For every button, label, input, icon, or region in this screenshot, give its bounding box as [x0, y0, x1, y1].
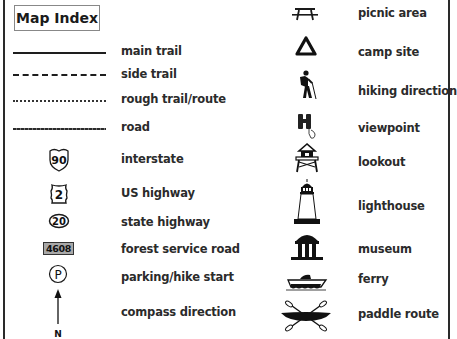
ferry-icon [284, 271, 328, 293]
legend-label-parking: parking/hike start [121, 270, 234, 284]
lookout-tower-icon [294, 143, 320, 173]
museum-icon [290, 232, 324, 262]
us-highway-shield-icon: 2 [49, 183, 69, 205]
legend-label-main-trail: main trail [121, 44, 182, 58]
side-trail-line-icon [13, 74, 106, 76]
left-border [3, 0, 5, 339]
legend-label-viewpoint: viewpoint [358, 121, 420, 135]
legend-label-hiking-direction: hiking direction [358, 84, 457, 98]
picnic-table-icon [291, 7, 319, 21]
legend-label-lookout: lookout [358, 155, 405, 169]
svg-text:N: N [54, 329, 62, 339]
state-highway-oval-icon: 20 [48, 213, 70, 229]
svg-text:20: 20 [52, 216, 66, 227]
interstate-shield-icon: 90 [48, 148, 70, 172]
legend-label-side-trail: side trail [121, 67, 177, 81]
legend-label-interstate: interstate [121, 152, 184, 166]
legend-label-forest-service-road: forest service road [121, 242, 240, 256]
right-border [448, 0, 450, 339]
legend-label-paddle-route: paddle route [358, 307, 439, 321]
rough-trail-line-icon [13, 100, 106, 102]
legend-label-lighthouse: lighthouse [358, 199, 425, 213]
road-line-icon [13, 128, 106, 130]
legend-label-museum: museum [358, 242, 412, 256]
svg-text:2: 2 [55, 188, 63, 202]
main-trail-line-icon [13, 52, 106, 54]
campsite-triangle-icon [295, 36, 317, 56]
legend-label-state-highway: state highway [121, 215, 210, 229]
map-index-title: Map Index [14, 5, 100, 31]
svg-text:90: 90 [51, 154, 67, 167]
legend-label-us-highway: US highway [121, 186, 195, 200]
legend-label-road: road [121, 120, 150, 134]
hiker-icon [297, 70, 317, 100]
legend-label-camp-site: camp site [358, 45, 419, 59]
kayak-paddles-icon [280, 300, 332, 332]
legend-label-rough-trail: rough trail/route [121, 92, 226, 106]
lighthouse-icon [291, 179, 323, 225]
legend-label-ferry: ferry [358, 272, 389, 286]
binoculars-icon [295, 112, 319, 140]
svg-text:P: P [54, 268, 61, 282]
parking-icon: P [48, 264, 68, 284]
legend-label-compass-direction: compass direction [121, 305, 236, 319]
north-arrow-icon: N [51, 289, 65, 339]
legend-label-picnic-area: picnic area [358, 6, 427, 20]
forest-road-box-icon: 4608 [43, 242, 74, 255]
